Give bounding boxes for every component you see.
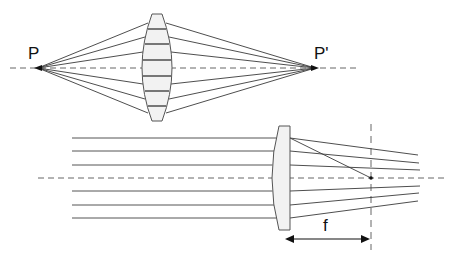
plano-convex-lens (272, 126, 290, 230)
optics-diagram (0, 0, 456, 256)
top-panel (10, 14, 360, 121)
biconvex-lens (142, 14, 172, 121)
source-point-label: P (28, 45, 39, 62)
focal-point-marker (369, 176, 373, 180)
source-point-marker (34, 65, 42, 71)
image-point-label: P' (314, 45, 329, 62)
focal-length-label: f (323, 217, 328, 234)
focal-length-arrow (285, 235, 370, 243)
bottom-panel (38, 124, 445, 250)
image-point-marker (311, 65, 319, 71)
